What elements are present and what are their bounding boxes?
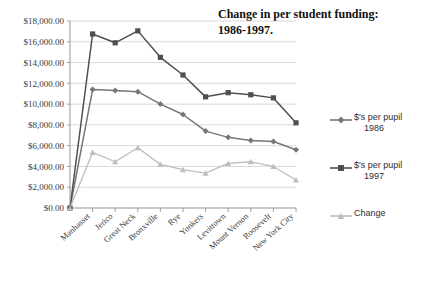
data-point [226, 90, 231, 95]
legend-marker-1997 [330, 163, 352, 173]
x-axis-tick-label: Rye [166, 211, 183, 228]
chart-container: Change in per student funding: 1986-1997… [0, 0, 429, 288]
data-point [225, 134, 231, 140]
y-axis-tick-label: $14,000.00 [24, 58, 65, 68]
data-point [112, 159, 118, 165]
data-point [112, 88, 118, 94]
legend-label-1997-line1: $'s per pupil [354, 160, 402, 170]
data-point [158, 55, 163, 60]
data-point [180, 72, 185, 77]
y-axis-labels-group: $0.00$2,000.00$4,000.00$6,000.00$8,000.0… [24, 16, 65, 213]
series-line [70, 90, 296, 208]
y-axis-tick-label: $4,000.00 [28, 162, 65, 172]
data-point [157, 101, 163, 107]
y-axis-tick-label: $0.00 [44, 203, 65, 213]
series-line [70, 31, 296, 208]
data-point [293, 120, 298, 125]
data-point [293, 147, 299, 153]
chart-legend: $'s per pupil 1986 $'s per pupil 1997 Ch… [330, 112, 429, 256]
legend-label-change-line1: Change [354, 208, 386, 218]
legend-item-1986[interactable]: $'s per pupil 1986 [330, 112, 429, 138]
legend-label-1997-line2: 1997 [364, 171, 429, 182]
data-point [90, 87, 96, 93]
data-point [135, 28, 140, 33]
data-point [248, 137, 254, 143]
y-axis-tick-label: $10,000.00 [24, 99, 65, 109]
legend-item-1997[interactable]: $'s per pupil 1997 [330, 160, 429, 186]
data-point [270, 139, 276, 145]
data-series-group [67, 28, 299, 211]
series-3 [67, 145, 299, 211]
data-point [90, 150, 96, 156]
legend-marker-change [330, 211, 352, 221]
data-point [248, 92, 253, 97]
legend-marker-1986 [330, 115, 352, 125]
x-axis-labels-group: ManhassetJericoGreat NeckBronxvilleRyeYo… [58, 211, 296, 253]
data-point [293, 177, 299, 183]
y-axis-tick-label: $16,000.00 [24, 37, 65, 47]
y-axis-tick-label: $12,000.00 [24, 79, 65, 89]
data-point [271, 95, 276, 100]
legend-label-1986-line2: 1986 [364, 123, 429, 134]
x-axis-tick-label: Manhasset [58, 211, 92, 243]
series-2 [67, 28, 298, 210]
legend-label-change: Change [354, 208, 429, 219]
legend-item-change[interactable]: Change [330, 208, 429, 234]
data-point [203, 94, 208, 99]
legend-label-1997: $'s per pupil 1997 [354, 160, 429, 183]
data-point [113, 40, 118, 45]
y-axis-tick-label: $18,000.00 [24, 16, 65, 26]
y-axis-tick-label: $6,000.00 [28, 141, 65, 151]
data-point [135, 89, 141, 95]
y-axis-tick-label: $8,000.00 [28, 120, 65, 130]
legend-label-1986: $'s per pupil 1986 [354, 112, 429, 135]
legend-label-1986-line1: $'s per pupil [354, 112, 402, 122]
series-line [70, 148, 296, 208]
y-axis-tick-label: $2,000.00 [28, 182, 65, 192]
data-point [90, 31, 95, 36]
series-1 [67, 87, 299, 211]
